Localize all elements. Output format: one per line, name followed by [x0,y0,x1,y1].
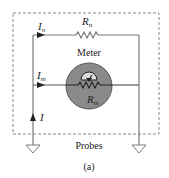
label-current-source: I [39,111,45,123]
figure-caption: (a) [83,161,94,173]
top-wire-shunt-resistor [33,32,139,38]
circuit-diagram: In Rn Meter Im Rm I Probes (a) [0,0,169,178]
label-resistor-shunt: Rn [81,15,93,29]
ground-icon-left [26,145,40,153]
label-meter: Meter [77,47,102,58]
ground-icon-right [132,145,146,153]
label-current-middle: Im [36,69,46,83]
label-current-top: In [37,20,46,34]
arrow-source-current [30,113,36,121]
label-probes: Probes [75,140,102,151]
